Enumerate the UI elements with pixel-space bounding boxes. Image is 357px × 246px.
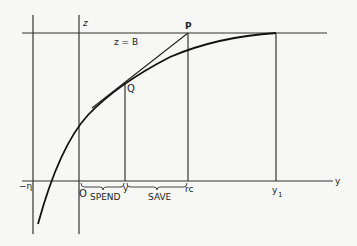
z-equals-b-label: z = B: [114, 37, 138, 47]
y-axis-label: y: [335, 176, 341, 186]
z-axis-label: z: [82, 18, 88, 28]
spend-brace: [81, 183, 124, 190]
save-brace: [127, 183, 187, 190]
rc-label: rc: [185, 184, 194, 194]
point-q-label: Q: [127, 83, 135, 94]
point-p-label: P: [185, 21, 192, 31]
y-small-label: y: [123, 183, 129, 193]
neg-eta-label: −η: [19, 181, 32, 191]
diagram-canvas: z z = B P Q −η O y rc y 1 y SPEND SAVE: [0, 0, 357, 246]
y1-subscript: 1: [278, 191, 282, 199]
tangent-line: [92, 33, 188, 108]
consumption-saving-diagram: z z = B P Q −η O y rc y 1 y SPEND SAVE: [0, 0, 357, 246]
spend-label: SPEND: [90, 192, 121, 202]
origin-label: O: [79, 188, 87, 199]
save-label: SAVE: [148, 192, 172, 202]
